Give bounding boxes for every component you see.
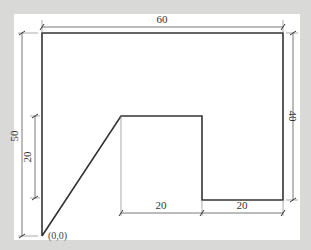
- diagram-stage: 60 50 20 40 20 20 (0,0): [0, 0, 311, 250]
- drawing-canvas: 60 50 20 40 20 20 (0,0): [0, 0, 311, 250]
- dim-label-top: 60: [157, 13, 169, 25]
- origin-label: (0,0): [48, 230, 67, 242]
- dim-label-right: 40: [287, 111, 299, 123]
- dim-label-bottom-right: 20: [237, 199, 249, 211]
- dim-label-left-inner: 20: [21, 151, 33, 163]
- dim-label-bottom-middle: 20: [156, 199, 168, 211]
- dim-label-left: 50: [8, 130, 20, 142]
